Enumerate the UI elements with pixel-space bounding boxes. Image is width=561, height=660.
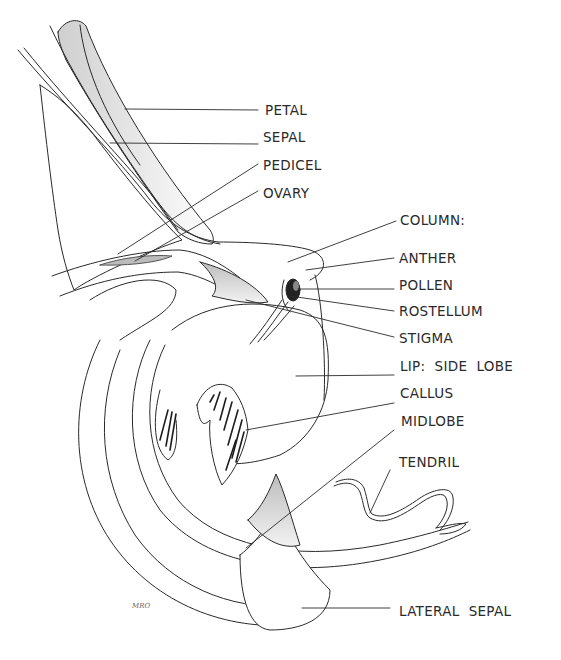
orchid-diagram: MRO PETAL SEPAL PEDICEL OVARY COLUMN: AN…: [0, 0, 561, 660]
label-rostellum: ROSTELLUM: [399, 303, 483, 319]
label-lip-side-lobe: LIP: SIDE LOBE: [400, 358, 513, 374]
artist-signature: MRO: [132, 602, 150, 610]
label-column: COLUMN:: [400, 212, 465, 228]
tendril-shape: [336, 479, 453, 530]
label-callus: CALLUS: [400, 385, 453, 401]
label-lateral-sepal: LATERAL SEPAL: [399, 603, 511, 619]
orchid-illustration: [0, 0, 561, 660]
lip-side-lobe-shape: [172, 304, 328, 464]
label-pollen: POLLEN: [399, 277, 453, 293]
label-petal: PETAL: [265, 102, 307, 118]
callus-shape: [197, 384, 248, 485]
label-anther: ANTHER: [399, 250, 456, 266]
label-tendril: TENDRIL: [399, 454, 459, 470]
label-stigma: STIGMA: [399, 330, 453, 346]
label-midlobe: MIDLOBE: [401, 413, 465, 429]
label-sepal: SEPAL: [263, 129, 306, 145]
label-pedicel: PEDICEL: [263, 157, 322, 173]
label-ovary: OVARY: [263, 185, 309, 201]
